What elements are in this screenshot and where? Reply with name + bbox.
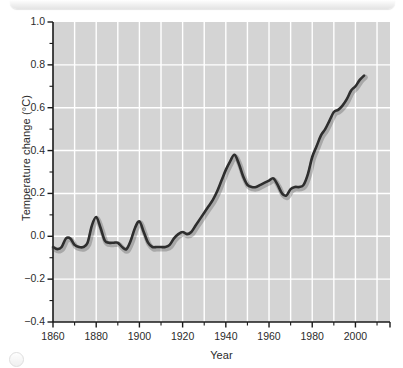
x-tick-label: 1960 [246,330,292,342]
x-tick-label: 1880 [73,330,119,342]
plot-area [0,0,403,368]
y-tick-label: 0.8 [5,58,45,70]
y-tick-label: −0.4 [5,315,45,327]
y-tick-label: −0.2 [5,272,45,284]
x-tick-label: 1860 [30,330,76,342]
x-tick-label: 1980 [289,330,335,342]
corner-circle-mark [9,352,24,367]
y-tick-label: 0.4 [5,144,45,156]
temperature-change-line-chart: Temperature change (°C) Year −0.4−0.20.0… [0,0,403,368]
y-tick-label: 1.0 [5,15,45,27]
y-tick-label: 0.2 [5,186,45,198]
plot-background [53,22,390,322]
x-tick-label: 1900 [116,330,162,342]
x-tick-label: 2000 [332,330,378,342]
y-tick-label: 0.0 [5,229,45,241]
x-tick-label: 1940 [203,330,249,342]
x-tick-label: 1920 [160,330,206,342]
y-tick-label: 0.6 [5,101,45,113]
